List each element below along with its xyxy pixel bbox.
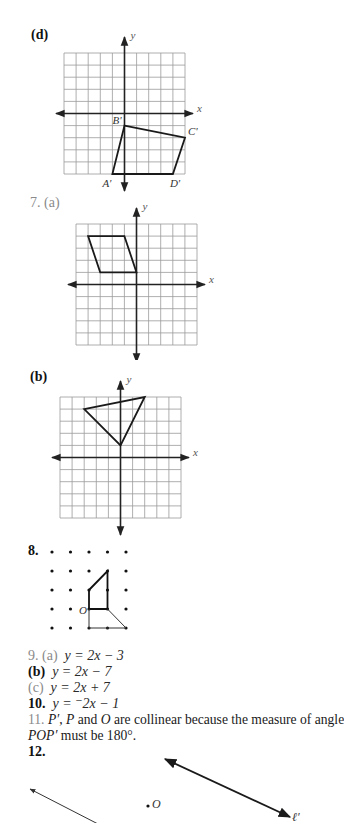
point-o-label: O	[152, 797, 161, 812]
point-o	[146, 804, 149, 807]
answer-9a-equation: y = 2x − 3	[65, 648, 124, 663]
answer-11-text: are collinear because the measure of ang…	[111, 712, 344, 727]
answer-9b-equation: y = 2x − 7	[52, 664, 111, 679]
answer-9c-number: (c)	[28, 680, 44, 695]
text-and: and	[74, 712, 100, 727]
answer-9c-equation: y = 2x + 7	[51, 680, 110, 695]
answer-11-text-cont: must be 180°.	[57, 728, 136, 743]
answer-12-number: 12.	[28, 744, 46, 760]
line-l-prime-label: ℓ′	[292, 810, 300, 823]
text-sep: ,	[59, 712, 66, 727]
point-p-prime: P′	[48, 712, 59, 727]
answer-9a: 9. (a) y = 2x − 3	[28, 648, 124, 664]
answer-11-number: 11.	[28, 712, 45, 727]
answer-9b-number: (b)	[28, 664, 45, 679]
point-o-text: O	[101, 712, 111, 727]
answer-11-line1: 11. P′, P and O are collinear because th…	[28, 712, 344, 728]
answer-9b: (b) y = 2x − 7	[28, 664, 111, 680]
answer-10: 10. y = ⁻2x − 1	[28, 696, 119, 712]
answer-9a-number: 9. (a)	[28, 648, 58, 663]
line-l-prime	[165, 759, 290, 817]
answer-11-line2: POP′ must be 180°.	[28, 728, 136, 744]
answer-10-number: 10.	[28, 696, 46, 711]
line-l	[30, 789, 100, 823]
angle-pop-prime: POP′	[28, 728, 57, 743]
answer-10-equation: y = ⁻2x − 1	[53, 696, 120, 711]
answer-9c: (c) y = 2x + 7	[28, 680, 110, 696]
